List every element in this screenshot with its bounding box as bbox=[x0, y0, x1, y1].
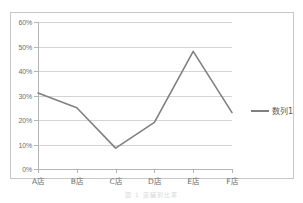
y-axis-label: 40% bbox=[19, 68, 32, 75]
x-axis-label: B店 bbox=[71, 175, 83, 186]
x-axis-tick bbox=[77, 169, 78, 173]
chart-legend: 数列1 bbox=[251, 105, 293, 116]
chart-frame: 0%10%20%30%40%50%60% A店B店C店D店E店F店 数列1 bbox=[10, 12, 294, 179]
legend-entry-label: 数列1 bbox=[272, 105, 293, 116]
y-axis-label: 10% bbox=[19, 141, 32, 148]
x-axis-tick bbox=[232, 169, 233, 173]
x-axis-label: D店 bbox=[148, 175, 161, 186]
series-line-group bbox=[38, 22, 232, 169]
x-axis-tick bbox=[154, 169, 155, 173]
x-axis-tick bbox=[193, 169, 194, 173]
x-axis-label: A店 bbox=[32, 175, 44, 186]
y-axis-label: 30% bbox=[19, 92, 32, 99]
y-axis-label: 20% bbox=[19, 117, 32, 124]
figure-caption: 図 1 店舗別比率 bbox=[0, 190, 303, 199]
legend-line-swatch bbox=[251, 110, 269, 112]
y-axis-label: 0% bbox=[22, 166, 32, 173]
x-axis-tick bbox=[116, 169, 117, 173]
series-1-line bbox=[38, 51, 232, 148]
x-axis-label: C店 bbox=[109, 175, 121, 186]
x-axis-label: E店 bbox=[187, 175, 199, 186]
plot-area: 0%10%20%30%40%50%60% A店B店C店D店E店F店 bbox=[38, 22, 232, 169]
y-axis-label: 60% bbox=[19, 19, 32, 26]
x-axis-tick bbox=[38, 169, 39, 173]
y-axis-label: 50% bbox=[19, 43, 32, 50]
gridline-0% bbox=[38, 169, 232, 170]
x-axis-label: F店 bbox=[226, 175, 237, 186]
